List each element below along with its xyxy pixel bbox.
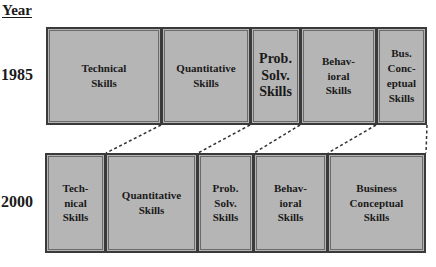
dashed-connector-lines <box>0 0 436 267</box>
connector-behavioral-boundary <box>328 125 376 153</box>
connector-quantitative-boundary <box>198 125 250 153</box>
connector-technical-boundary <box>106 125 161 153</box>
connector-problem-solving-boundary <box>254 125 300 153</box>
connector-right-edge <box>426 125 427 153</box>
